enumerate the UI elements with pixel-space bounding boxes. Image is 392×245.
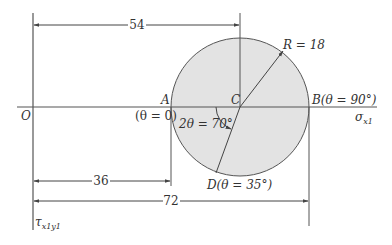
point-o-label: O: [21, 109, 31, 123]
sigma-axis-label: σx1: [355, 110, 373, 126]
tau-axis-label: τx1y1: [35, 215, 61, 231]
point-a-label: A: [160, 93, 170, 107]
point-d-label: D(θ = 35°): [206, 178, 272, 192]
point-b-label: B(θ = 90°): [311, 93, 377, 107]
dim-oa-label: 36: [93, 174, 108, 188]
dim-ob-label: 72: [163, 194, 178, 208]
radius-label: R = 18: [282, 38, 325, 52]
point-a-sub-label: (θ = 0): [135, 109, 177, 123]
point-c-label: C: [231, 93, 240, 107]
dim-oc-label: 54: [129, 18, 145, 32]
angle-label: 2θ = 70°: [178, 117, 233, 131]
mohr-circle-diagram: 54 36 72 O A (θ = 0) C B(θ = 90°) D(θ = …: [0, 0, 392, 245]
